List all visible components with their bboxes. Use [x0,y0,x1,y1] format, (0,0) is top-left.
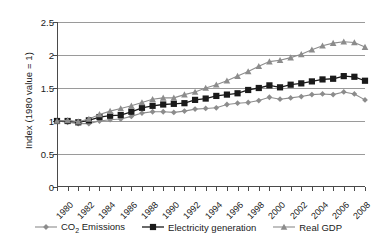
data-point-marker [171,110,177,116]
x-tick-label: 1988 [139,200,160,221]
data-point-marker [319,76,325,82]
legend-label: Real GDP [299,222,342,233]
data-point-marker [362,78,368,84]
x-tick-mark [68,187,69,191]
x-tick-mark [121,187,122,191]
data-point-marker [362,97,368,103]
chart-legend: CO2 EmissionsElectricity generationReal … [0,221,377,234]
data-point-marker [181,100,187,106]
data-point-marker [267,94,273,100]
x-tick-label: 1984 [96,200,117,221]
data-point-marker [213,81,220,87]
x-tick-mark [142,187,143,191]
data-point-marker [213,105,219,111]
data-point-marker [341,73,347,79]
x-tick-label: 2008 [351,200,372,221]
x-tick-mark [99,187,100,191]
x-tick-label: 2002 [288,200,309,221]
x-tick-mark [206,187,207,191]
legend-marker-square-icon [142,222,164,232]
data-point-marker [245,87,251,93]
data-point-marker [309,92,315,98]
x-tick-mark [195,187,196,191]
data-point-marker [245,68,252,74]
x-tick-mark [323,187,324,191]
data-point-marker [288,95,294,101]
data-point-marker [309,46,316,52]
data-point-marker [330,92,336,98]
x-tick-mark [312,187,313,191]
data-point-marker [224,77,231,83]
x-tick-mark [184,187,185,191]
data-point-marker [245,100,251,106]
legend-item[interactable]: Real GDP [273,222,342,233]
x-tick-label: 1998 [245,200,266,221]
legend-item[interactable]: CO2 Emissions [35,221,125,234]
data-point-marker [235,100,241,106]
data-point-marker [43,225,49,231]
x-tick-mark [280,187,281,191]
legend-marker-triangle-icon [273,222,295,232]
data-point-marker [213,93,219,99]
data-point-marker [320,91,326,97]
x-tick-mark [89,187,90,191]
legend-label: Electricity generation [168,222,256,233]
x-tick-mark [291,187,292,191]
data-point-marker [351,91,357,97]
data-point-marker [288,82,294,88]
x-tick-mark [365,187,366,191]
data-point-marker [192,97,198,103]
x-tick-label: 1996 [224,200,245,221]
y-tick-label: 0.5 [41,149,54,160]
data-point-marker [128,109,134,115]
data-point-marker [139,105,145,111]
x-tick-mark [163,187,164,191]
legend-label: CO2 Emissions [61,221,125,234]
plot-area: 00.511.522.5 198019821984198619881990199… [57,22,365,187]
data-point-marker [266,82,272,88]
x-tick-label: 1992 [181,200,202,221]
series-line [57,76,365,122]
y-tick-label: 2 [49,50,54,61]
x-tick-mark [153,187,154,191]
series-lines [57,22,365,187]
legend-marker-diamond-icon [35,222,57,232]
y-tick-label: 1 [49,116,54,127]
data-point-marker [234,73,241,79]
y-axis-title: Index (1980 value = 1) [23,16,34,186]
data-point-marker [171,101,177,107]
x-tick-label: 1990 [160,200,181,221]
data-point-marker [160,109,166,115]
data-point-marker [203,106,209,112]
x-tick-label: 2004 [309,200,330,221]
series-co2-emissions [54,89,368,126]
data-point-marker [203,95,209,101]
x-tick-mark [259,187,260,191]
data-point-marker [362,44,369,50]
data-point-marker [341,89,347,95]
data-point-marker [277,96,283,102]
x-tick-label: 1994 [203,200,224,221]
data-point-marker [277,84,283,90]
x-tick-mark [333,187,334,191]
data-point-marker [309,78,315,84]
x-tick-label: 1982 [75,200,96,221]
data-point-marker [224,92,230,98]
data-point-marker [298,51,305,57]
x-tick-mark [174,187,175,191]
data-point-marker [192,89,199,95]
x-tick-mark [57,187,58,191]
data-point-marker [118,112,124,118]
data-point-marker [150,224,156,230]
data-point-marker [298,94,304,100]
x-tick-mark [248,187,249,191]
data-point-marker [192,106,198,112]
legend-item[interactable]: Electricity generation [142,222,256,233]
data-point-marker [330,76,336,82]
data-point-marker [149,103,155,109]
x-tick-mark [78,187,79,191]
data-point-marker [160,101,166,107]
x-tick-label: 2006 [330,200,351,221]
series-electricity-generation [54,73,368,125]
x-tick-mark [227,187,228,191]
